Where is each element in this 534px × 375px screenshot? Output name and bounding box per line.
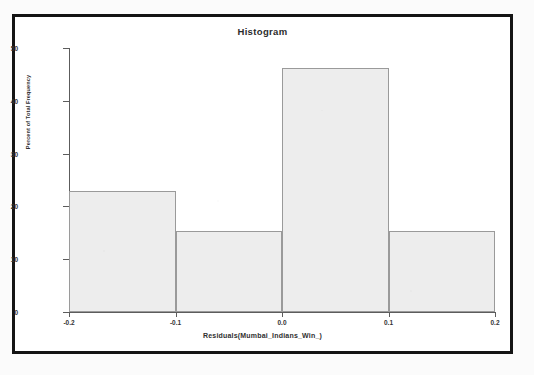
y-axis-tick-label: 0 (14, 309, 18, 316)
plot-area: Histogram 01020304050 -0.2-0.10.00.10.2 … (15, 17, 510, 351)
histogram-bar (176, 231, 283, 312)
histogram-bar (282, 68, 389, 312)
y-axis-tick-label: 10 (11, 256, 18, 263)
x-axis-tick (495, 312, 496, 317)
x-axis-tick-label: 0.0 (277, 319, 286, 326)
x-axis-tick (282, 312, 283, 317)
histogram-bars (69, 48, 495, 312)
histogram-bar (69, 191, 176, 312)
y-axis-tick-label: 40 (11, 97, 18, 104)
y-axis-tick-label: 20 (11, 203, 18, 210)
y-axis-title: Percent of Total Frequency (25, 37, 31, 187)
x-axis-tick-label: 0.2 (490, 319, 499, 326)
chart-title: Histogram (15, 26, 510, 37)
y-axis-tick-label: 30 (11, 150, 18, 157)
y-axis-tick-label: 50 (11, 45, 18, 52)
figure-frame: Histogram 01020304050 -0.2-0.10.00.10.2 … (12, 14, 513, 354)
x-axis-tick (176, 312, 177, 317)
x-axis-tick (389, 312, 390, 317)
x-axis-tick-label: 0.1 (384, 319, 393, 326)
x-axis-tick-label: -0.2 (63, 319, 74, 326)
x-axis-tick-label: -0.1 (170, 319, 181, 326)
x-axis-tick (69, 312, 70, 317)
histogram-bar (389, 231, 496, 312)
x-axis-title: Residuals(Mumbai_Indians_Win_) (15, 332, 510, 339)
